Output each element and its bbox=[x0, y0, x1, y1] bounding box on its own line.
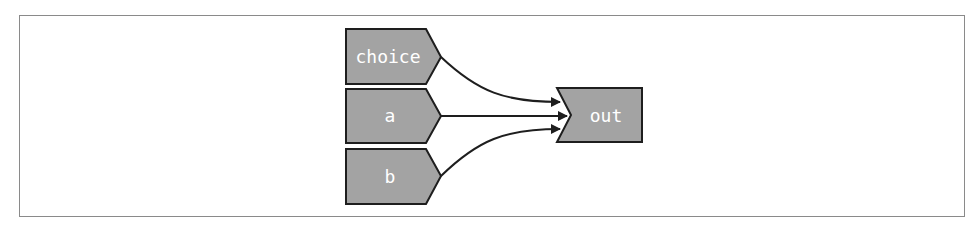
dataflow-diagram: choice a b out bbox=[0, 0, 980, 227]
edge-choice-to-out bbox=[441, 57, 560, 102]
node-out-label: out bbox=[590, 105, 623, 126]
node-b-label: b bbox=[385, 166, 396, 187]
node-out[interactable]: out bbox=[557, 88, 642, 142]
edge-b-to-out bbox=[441, 129, 560, 176]
node-choice[interactable]: choice bbox=[346, 29, 441, 84]
node-choice-label: choice bbox=[355, 46, 420, 67]
node-a[interactable]: a bbox=[346, 89, 441, 143]
node-b[interactable]: b bbox=[346, 149, 441, 204]
node-a-label: a bbox=[385, 105, 396, 126]
